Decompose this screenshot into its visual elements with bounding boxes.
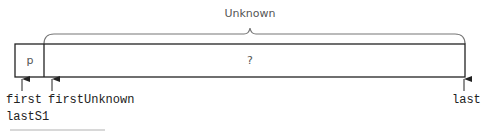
- last-s1-pointer-label: lastS1: [6, 110, 49, 124]
- unknown-region-label: ?: [247, 54, 253, 67]
- first-unknown-pointer-label: firstUnknown: [48, 93, 134, 107]
- pivot-cell-label: p: [27, 54, 34, 67]
- first-pointer-label: first: [6, 93, 42, 107]
- scan-artifact-divider: [10, 129, 105, 131]
- unknown-label: Unknown: [224, 7, 275, 20]
- array-box: [15, 44, 465, 77]
- unknown-brace: [44, 28, 465, 44]
- array-diagram: Unknown p ? first lastS1 firstUnknown la…: [0, 0, 481, 132]
- last-pointer-label: last: [452, 93, 481, 107]
